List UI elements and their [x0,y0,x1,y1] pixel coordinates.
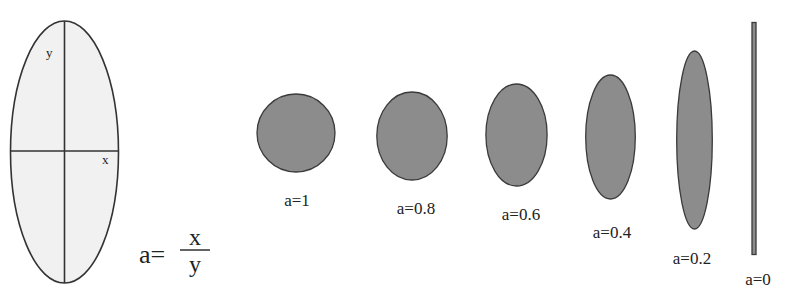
shape-label: a=0.6 [502,205,540,224]
shape-a-1 [257,94,335,172]
reference-ellipse-group: y x [11,21,119,283]
shape-label: a=0 [745,270,771,289]
formula-lhs: a= [139,240,165,269]
aspect-ratio-diagram: y x a= x y a=1a=0.8a=0.6a=0.4a=0.2a=0 [0,0,794,301]
shape-label: a=0.4 [593,223,632,242]
x-axis-label: x [102,152,109,167]
shape-a-0-4 [586,75,636,199]
shape-a-0-6 [486,84,547,186]
formula-numerator: x [189,224,201,250]
formula-denominator: y [189,251,201,277]
aspect-ratio-shapes: a=1a=0.8a=0.6a=0.4a=0.2a=0 [257,23,771,290]
formula: a= x y [139,224,210,277]
shape-a-0-8 [377,92,447,180]
shape-label: a=0.8 [397,199,435,218]
shape-a-0-2 [677,51,713,229]
y-axis-label: y [46,45,53,60]
shape-label: a=1 [284,191,310,210]
shape-a-0 [752,23,756,255]
shape-label: a=0.2 [673,249,711,268]
